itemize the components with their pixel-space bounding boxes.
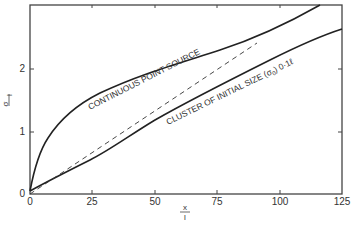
x-axis-label: x l [180, 203, 190, 222]
x-tick-label-25: 25 [86, 196, 98, 207]
chart: 0 25 50 75 100 125 0 1 2 x l σ l CONTINU… [0, 0, 353, 226]
svg-text:l: l [5, 94, 14, 96]
x-tick-label-75: 75 [211, 196, 223, 207]
y-tick-label-2: 2 [19, 63, 25, 74]
y-ticks [30, 69, 342, 132]
x-tick-label-50: 50 [149, 196, 161, 207]
label-continuous-point-source: CONTINUOUS POINT SOURCE [86, 46, 201, 111]
x-tick-label-125: 125 [334, 196, 351, 207]
y-tick-label-0: 0 [19, 188, 25, 199]
label-cluster: CLUSTER OF INITIAL SIZE (σ0) 0·1ℓ [164, 56, 295, 127]
x-tick-label-100: 100 [272, 196, 289, 207]
svg-text:x: x [183, 203, 187, 212]
x-tick-label-0: 0 [27, 196, 33, 207]
y-axis-label: σ l [1, 94, 14, 107]
y-tick-label-1: 1 [19, 126, 25, 137]
plot-frame [30, 5, 342, 194]
x-ticks [92, 5, 280, 194]
svg-text:l: l [184, 213, 186, 222]
